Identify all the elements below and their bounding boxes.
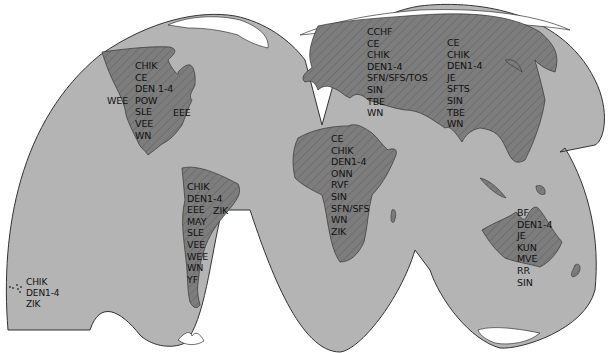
virus-label: BF bbox=[517, 207, 552, 219]
virus-label: CHIK bbox=[26, 277, 59, 288]
world-map bbox=[0, 0, 609, 353]
virus-label: VEE bbox=[187, 239, 222, 251]
virus-label: CHIK bbox=[331, 145, 369, 157]
virus-label: MVE bbox=[517, 253, 552, 265]
virus-label: WEE bbox=[187, 251, 222, 263]
virus-label: SIN bbox=[517, 277, 552, 289]
virus-label: JE bbox=[447, 72, 482, 84]
labels-africa: CE CHIK DEN1-4 ONN RVF SIN SFN/SFS WN ZI… bbox=[331, 133, 369, 237]
virus-label: CCHF bbox=[367, 26, 428, 38]
virus-label: TBE bbox=[367, 96, 428, 108]
virus-label: SIN bbox=[367, 84, 428, 96]
labels-pacific-islands: CHIK DEN1-4 ZIK bbox=[26, 277, 59, 310]
virus-label: RVF bbox=[331, 179, 369, 191]
virus-label: ONN bbox=[331, 168, 369, 180]
virus-label: YF bbox=[187, 274, 222, 286]
virus-label: SIN bbox=[447, 95, 482, 107]
virus-label: POW bbox=[135, 95, 173, 107]
virus-label: SIN bbox=[331, 191, 369, 203]
label-north-america-west: WEE bbox=[107, 95, 128, 107]
virus-label: CHIK bbox=[187, 181, 222, 193]
virus-label: KUN bbox=[517, 242, 552, 254]
virus-label: DEN1-4 bbox=[517, 219, 552, 231]
virus-label: CE bbox=[331, 133, 369, 145]
virus-label: WN bbox=[331, 214, 369, 226]
virus-label: WEE bbox=[107, 95, 128, 107]
virus-label: SLE bbox=[135, 106, 173, 118]
virus-label: CHIK bbox=[367, 49, 428, 61]
labels-europe-west-asia: CCHF CE CHIK DEN1-4 SFN/SFS/TOS SIN TBE … bbox=[367, 26, 428, 119]
virus-label: JE bbox=[517, 230, 552, 242]
label-north-america-east: EEE bbox=[173, 107, 191, 119]
virus-label: VEE bbox=[135, 118, 173, 130]
labels-australia: BF DEN1-4 JE KUN MVE RR SIN bbox=[517, 207, 552, 288]
virus-label: CE bbox=[367, 38, 428, 50]
virus-label: SFTS bbox=[447, 83, 482, 95]
labels-east-asia: CE CHIK DEN1-4 JE SFTS SIN TBE WN bbox=[447, 37, 482, 130]
virus-label: WN bbox=[447, 118, 482, 130]
virus-label: DEN1-4 bbox=[331, 156, 369, 168]
virus-label: DEN 1-4 bbox=[135, 83, 173, 95]
virus-label: CE bbox=[135, 72, 173, 84]
virus-label: ZIK bbox=[26, 299, 59, 310]
labels-south-america: CHIK DEN1-4 EEE MAY SLE VEE WEE WN YF bbox=[187, 181, 222, 285]
virus-label: RR bbox=[517, 265, 552, 277]
virus-label: ZIK bbox=[331, 226, 369, 238]
virus-label: DEN1-4 bbox=[447, 60, 482, 72]
virus-label: CHIK bbox=[135, 60, 173, 72]
virus-label: SFN/SFS/TOS bbox=[367, 72, 428, 84]
virus-label: DEN1-4 bbox=[187, 193, 222, 205]
virus-label: MAY bbox=[187, 216, 222, 228]
labels-north-america: CHIK CE DEN 1-4 POW SLE VEE WN bbox=[135, 60, 173, 141]
virus-label: DEN1-4 bbox=[367, 61, 428, 73]
virus-label: CE bbox=[447, 37, 482, 49]
virus-label: SLE bbox=[187, 227, 222, 239]
virus-label: ZIK bbox=[213, 205, 228, 217]
virus-label: WN bbox=[187, 262, 222, 274]
virus-label: SFN/SFS bbox=[331, 203, 369, 215]
label-south-america-east: ZIK bbox=[213, 205, 228, 217]
virus-label: DEN1-4 bbox=[26, 288, 59, 299]
virus-label: CHIK bbox=[447, 49, 482, 61]
virus-label: WN bbox=[367, 107, 428, 119]
virus-label: WN bbox=[135, 130, 173, 142]
virus-label: EEE bbox=[173, 107, 191, 119]
virus-label: TBE bbox=[447, 107, 482, 119]
